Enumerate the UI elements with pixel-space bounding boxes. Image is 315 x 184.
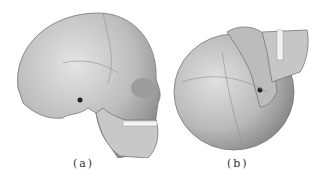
panel-label-a: (a) [73,157,94,170]
skull-rotated-illustration [172,22,312,152]
skull-lateral-illustration [8,8,168,158]
panel-label-b: (b) [227,157,249,170]
